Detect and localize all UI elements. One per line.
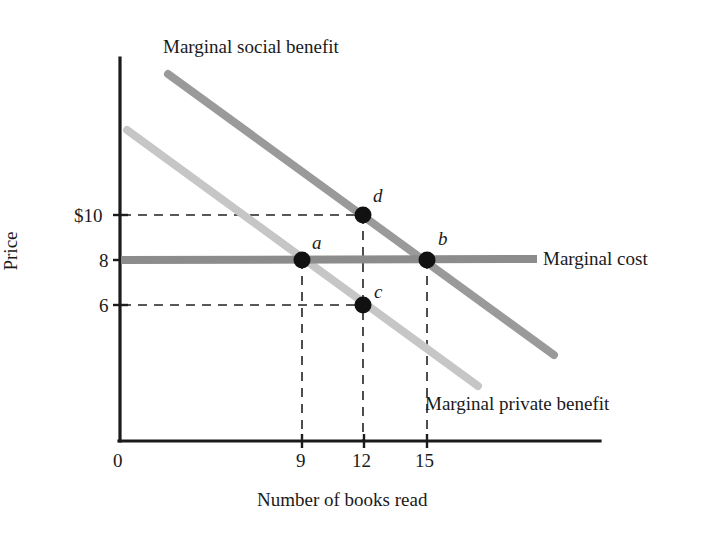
x-tick-label-9: 9 <box>296 450 306 472</box>
economics-externality-chart: Price $10 8 6 0 9 12 15 Number of books … <box>0 0 706 533</box>
marginal-cost-label: Marginal cost <box>543 248 648 270</box>
point-a-marker <box>294 252 311 269</box>
point-c-marker <box>355 297 372 314</box>
y-tick-label-10: $10 <box>74 205 103 227</box>
x-tick-label-0: 0 <box>113 450 123 472</box>
point-c-label: c <box>374 281 382 303</box>
point-d-marker <box>355 207 372 224</box>
y-axis-title: Price <box>0 216 22 286</box>
point-b-marker <box>419 252 436 269</box>
point-a-label: a <box>312 232 322 254</box>
marginal-social-benefit-label: Marginal social benefit <box>163 36 339 58</box>
point-d-label: d <box>373 185 383 207</box>
x-axis-title: Number of books read <box>257 489 427 511</box>
point-b-label: b <box>438 228 448 250</box>
x-tick-label-15: 15 <box>415 450 434 472</box>
y-tick-label-6: 6 <box>99 295 109 317</box>
marginal-cost-curve <box>121 259 537 260</box>
marginal-private-benefit-label: Marginal private benefit <box>425 393 609 415</box>
x-tick-label-12: 12 <box>352 450 371 472</box>
y-tick-label-8: 8 <box>99 250 109 272</box>
